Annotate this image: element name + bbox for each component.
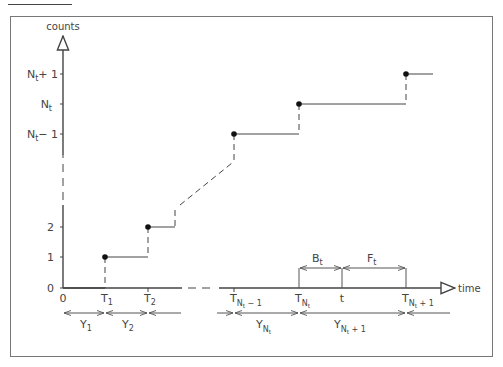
- x-tick-t: t: [340, 292, 345, 305]
- y-tick-0: 0: [47, 282, 54, 295]
- step-function: [63, 74, 433, 288]
- interval-y2: Y2: [121, 318, 134, 333]
- x-tick-tnt-plus-1: TNt + 1: [401, 292, 434, 309]
- forward-recurrence-label: Ft: [367, 252, 376, 267]
- y-axis-label: counts: [46, 21, 79, 32]
- interval-ynt-plus-1: YNt + 1: [333, 318, 366, 335]
- x-tick-tnt: TNt: [294, 292, 311, 309]
- y-tick-2: 2: [47, 221, 54, 234]
- x-tick-t1: T1: [100, 292, 113, 307]
- jump-connectors: [105, 74, 406, 288]
- x-axis-label: time: [458, 283, 481, 294]
- x-tick-0: 0: [60, 292, 67, 305]
- interval-ynt: YNt: [255, 318, 272, 335]
- backward-recurrence-label: Bt: [312, 252, 323, 267]
- y-tick-1: 1: [47, 251, 54, 264]
- x-tick-tnt-minus-1: TNt − 1: [229, 292, 262, 309]
- y-tick-nt: Nt: [41, 98, 52, 113]
- y-tick-nt-plus-1: Nt+ 1: [27, 68, 58, 83]
- recurrence-brackets: [299, 268, 406, 288]
- counting-process-diagram: counts Nt+ 1 Nt Nt− 1 2 1 0 time 0 T1 T2…: [0, 0, 503, 367]
- x-tick-t2: T2: [143, 292, 156, 307]
- y-tick-nt-minus-1: Nt− 1: [27, 128, 58, 143]
- interval-y1: Y1: [79, 318, 92, 333]
